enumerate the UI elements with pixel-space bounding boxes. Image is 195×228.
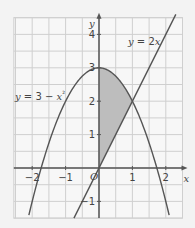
x-axis-arrow-icon [182,166,188,171]
y-axis-label: y [88,18,95,29]
y-tick-label: 4 [89,29,95,40]
y-tick-label: 2 [89,96,95,107]
grid-lines [14,18,183,218]
x-axis-label: x [184,173,190,184]
x-tick-label: 1 [129,172,135,183]
y-tick-label: 3 [89,62,95,73]
origin-label: O [90,171,98,182]
x-tick-label: −1 [58,172,73,183]
x-tick-label: 2 [163,172,169,183]
y-tick-label: −1 [80,196,95,207]
label-parabola: y = 3 − x² [14,90,65,102]
label-line: y = 2x [127,36,161,47]
graph-area: −2−112−11234Oxy y = 3 − x²y = 2x [0,0,195,228]
y-tick-label: 1 [89,129,95,140]
x-tick-label: −2 [25,172,40,183]
y-axis-arrow-icon [97,13,102,19]
